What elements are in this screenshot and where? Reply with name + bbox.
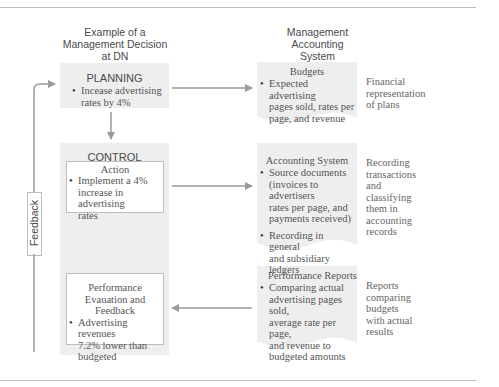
text-line: with actual bbox=[366, 315, 412, 327]
text-line: (invoices to advertisers bbox=[269, 179, 357, 202]
diagram-graphics bbox=[0, 0, 499, 387]
text-line: accounting bbox=[366, 215, 416, 227]
performance-reports-document: Performance Reports Comparing actual adv… bbox=[268, 270, 360, 363]
text-line: budgeted amounts bbox=[269, 351, 360, 363]
accounting-note: Recording transactions and classifying t… bbox=[366, 157, 416, 238]
accounting-system-title: Accounting System bbox=[257, 155, 357, 167]
budgets-document: Budgets Expected advertising pages sold,… bbox=[257, 66, 357, 124]
text-line: budgets bbox=[366, 303, 412, 315]
budgets-note: Financial representation of plans bbox=[366, 76, 425, 111]
text-line: of plans bbox=[366, 99, 425, 111]
performance-reports-bullet: Comparing actual advertising pages sold,… bbox=[260, 282, 360, 363]
text-line: payments received) bbox=[269, 213, 357, 225]
text-line: advertising pages sold, bbox=[269, 294, 360, 317]
accounting-bullet-source: Source documents (invoices to advertiser… bbox=[260, 167, 357, 225]
text-line: average rate per page, bbox=[269, 317, 360, 340]
text-line: Comparing actual bbox=[269, 282, 360, 294]
text-line: classifying bbox=[366, 192, 416, 204]
budgets-bullet: Expected advertising pages sold, rates p… bbox=[260, 78, 357, 124]
text-line: results bbox=[366, 326, 412, 338]
performance-reports-note: Reports comparing budgets with actual re… bbox=[366, 280, 412, 338]
text-line: records bbox=[366, 226, 416, 238]
text-line: and bbox=[366, 180, 416, 192]
text-line: Recording bbox=[366, 157, 416, 169]
text-line: pages sold, rates per bbox=[269, 101, 357, 113]
accounting-bullet-recording: Recording in general and subsidiary ledg… bbox=[260, 230, 357, 276]
text-line: page, and revenue bbox=[269, 113, 357, 125]
accounting-system-document: Accounting System Source documents (invo… bbox=[257, 155, 357, 276]
text-line: rates per page, and bbox=[269, 202, 357, 214]
text-line: Expected advertising bbox=[269, 78, 357, 101]
feedback-loop-arrow bbox=[34, 84, 55, 352]
text-line: transactions bbox=[366, 169, 416, 181]
budgets-title: Budgets bbox=[257, 66, 357, 78]
text-line: Source documents bbox=[269, 167, 357, 179]
text-line: Recording in general bbox=[269, 230, 357, 253]
text-line: Financial bbox=[366, 76, 425, 88]
performance-reports-title: Performance Reports bbox=[268, 270, 360, 282]
text-line: comparing bbox=[366, 292, 412, 304]
text-line: them in bbox=[366, 203, 416, 215]
text-line: representation bbox=[366, 88, 425, 100]
text-line: Reports bbox=[366, 280, 412, 292]
text-line: and revenue to bbox=[269, 340, 360, 352]
